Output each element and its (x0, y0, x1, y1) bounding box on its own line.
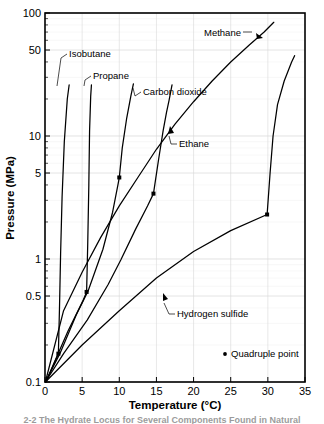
figure-caption: 2-2 The Hydrate Locus for Several Compon… (0, 415, 324, 424)
y-tick-label: 1 (35, 253, 41, 265)
x-tick-label: 30 (262, 385, 274, 397)
legend-quadruple-point-icon (223, 352, 227, 356)
x-tick-label: 15 (150, 385, 162, 397)
y-tick-label: 100 (23, 7, 41, 19)
y-tick-label: 0.5 (26, 290, 41, 302)
hydrate-locus-chart: 05101520253035 0.10.5151050100 Isobutane… (0, 0, 324, 424)
annotation-hydrogen-sulfide: Hydrogen sulfide (177, 308, 248, 319)
y-axis-title: Pressure (MPa) (4, 156, 16, 240)
annotation-quadruple-point: Quadruple point (231, 348, 299, 359)
annotation-methane: Methane (204, 27, 241, 38)
hydrate-locus-figure: 05101520253035 0.10.5151050100 Isobutane… (0, 0, 324, 424)
plot-background (45, 13, 305, 382)
quadruple-point-hydrogen-sulfide (265, 213, 269, 217)
annotation-propane: Propane (93, 70, 129, 81)
quadruple-point-propane (85, 290, 89, 294)
x-tick-label: 10 (113, 385, 125, 397)
x-tick-label: 35 (299, 385, 311, 397)
x-tick-label: 0 (42, 385, 48, 397)
x-tick-label: 5 (79, 385, 85, 397)
y-tick-label: 10 (29, 130, 41, 142)
y-tick-label: 5 (35, 167, 41, 179)
x-tick-label: 25 (225, 385, 237, 397)
annotation-carbon-dioxide: Carbon dioxide (143, 86, 207, 97)
x-tick-label: 20 (187, 385, 199, 397)
x-axis-title: Temperature (°C) (129, 399, 222, 411)
annotation-ethane: Ethane (179, 138, 209, 149)
quadruple-point-ethane (151, 192, 155, 196)
quadruple-point-carbon-dioxide (117, 175, 121, 179)
y-tick-label: 50 (29, 44, 41, 56)
quadruple-point-isobutane (56, 352, 60, 356)
annotation-isobutane: Isobutane (69, 48, 111, 59)
y-tick-label: 0.1 (26, 376, 41, 388)
